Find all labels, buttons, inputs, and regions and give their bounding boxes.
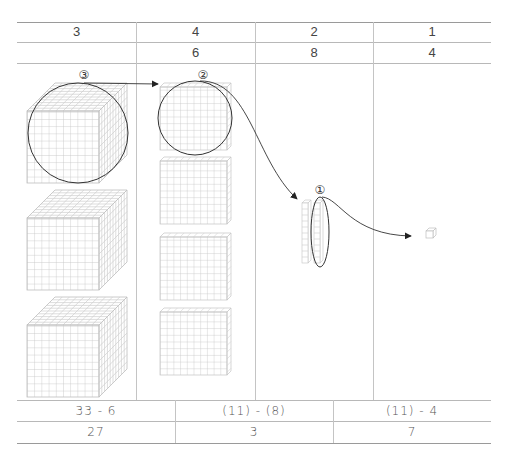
step-2-label: ② — [198, 68, 209, 82]
step-3-label: ③ — [79, 68, 90, 82]
ten-rod — [302, 200, 311, 263]
arrow-ten-to-one — [322, 197, 411, 236]
thousand-cube — [27, 297, 127, 397]
unit-cube — [426, 228, 436, 238]
base-ten-blocks-diagram: ③ ② ① — [0, 0, 512, 462]
hundred-flat — [160, 83, 231, 150]
ten-rod — [314, 200, 323, 263]
hundred-flat — [160, 233, 231, 300]
hundred-flat — [160, 157, 231, 224]
step-1-label: ① — [315, 183, 326, 197]
thousand-cube — [27, 190, 127, 290]
hundred-flat — [160, 308, 231, 375]
